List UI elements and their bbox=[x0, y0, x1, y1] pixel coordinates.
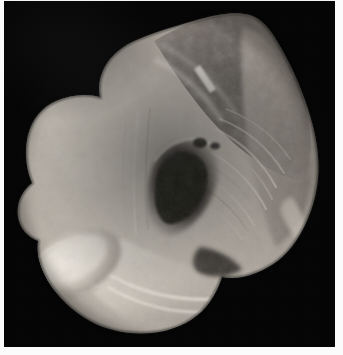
specimen-container bbox=[4, 1, 335, 347]
specimen-illustration bbox=[4, 1, 335, 347]
page-edge-bottom bbox=[0, 347, 343, 355]
photo-plate bbox=[4, 1, 335, 347]
photograph-page bbox=[0, 0, 343, 355]
page-edge-right bbox=[335, 0, 343, 355]
